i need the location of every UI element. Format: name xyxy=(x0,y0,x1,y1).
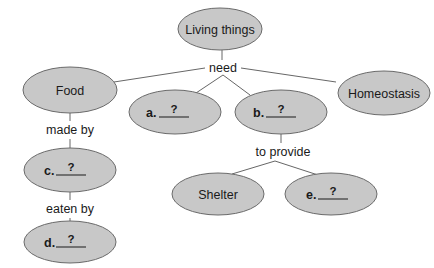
question-mark: ? xyxy=(67,161,74,173)
question-mark: ? xyxy=(170,103,177,115)
concept-map: Living things need Food a. ? b. ? Homeos… xyxy=(0,0,434,268)
node-c-blank: c. ? xyxy=(24,148,116,192)
node-living-things: Living things xyxy=(178,8,262,50)
node-e-blank: e. ? xyxy=(285,173,377,215)
node-label: Homeostasis xyxy=(348,87,420,101)
blank-letter: a. xyxy=(146,106,156,120)
blank-letter: c. xyxy=(44,164,54,178)
node-d-blank: d. ? xyxy=(24,221,116,263)
node-homeostasis: Homeostasis xyxy=(338,71,430,115)
blank-letter: d. xyxy=(44,236,55,250)
connector-eaten-by: eaten by xyxy=(46,202,95,216)
connector-made-by: made by xyxy=(46,123,95,137)
node-label: Living things xyxy=(185,23,255,37)
node-label: Shelter xyxy=(198,188,238,202)
node-b-blank: b. ? xyxy=(235,90,327,134)
question-mark: ? xyxy=(277,103,284,115)
line-need-a xyxy=(196,75,223,93)
question-mark: ? xyxy=(329,185,336,197)
connector-need: need xyxy=(209,61,237,75)
question-mark: ? xyxy=(67,233,74,245)
blank-letter: e. xyxy=(306,188,316,202)
line-need-b xyxy=(223,75,250,95)
line-toprovide-e xyxy=(275,161,318,175)
node-shelter: Shelter xyxy=(172,173,264,215)
line-need-homeostasis xyxy=(241,68,336,82)
node-food: Food xyxy=(23,67,117,113)
connector-to-provide: to provide xyxy=(256,145,311,159)
node-label: Food xyxy=(56,84,85,98)
blank-letter: b. xyxy=(253,106,264,120)
line-need-food xyxy=(114,68,205,82)
line-toprovide-shelter xyxy=(232,161,275,174)
node-a-blank: a. ? xyxy=(129,90,221,134)
